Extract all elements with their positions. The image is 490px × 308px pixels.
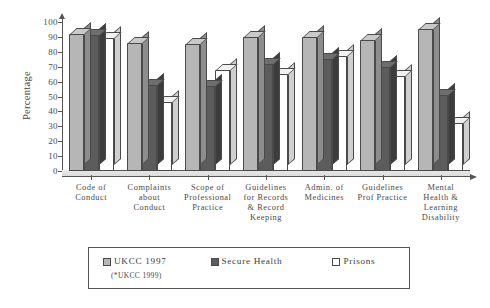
chart-figure: Percentage 0102030405060708090100 Code o… — [0, 0, 490, 308]
x-axis-label-line: Mental — [413, 183, 469, 193]
bar-side-face — [142, 31, 149, 165]
y-tick-label: 30 — [48, 121, 58, 131]
bar-groups — [62, 22, 470, 171]
bar-front-face — [302, 37, 317, 171]
legend-label: UKCC 1997 — [114, 256, 167, 266]
bar-front-face — [243, 37, 258, 171]
bar-front-face — [185, 44, 200, 171]
legend-swatch-icon — [332, 258, 340, 266]
bar-group — [179, 22, 237, 171]
bar[interactable] — [127, 43, 142, 171]
x-axis-label-line: Disability — [413, 213, 469, 223]
legend-sublabel: (*UKCC 1999) — [111, 271, 162, 280]
bar-group — [353, 22, 411, 171]
bar-group — [62, 22, 120, 171]
x-tick-mark — [149, 175, 150, 180]
bar-side-face — [405, 64, 412, 165]
legend-swatch-icon — [211, 258, 219, 266]
bar-side-face — [288, 62, 295, 165]
bar-side-face — [448, 83, 455, 165]
x-axis-label-line: about — [121, 193, 177, 203]
x-axis-label: GuidelinesProf Practice — [353, 183, 411, 223]
x-tick-mark — [324, 175, 325, 180]
bar-side-face — [200, 32, 207, 165]
x-tick-mark — [208, 175, 209, 180]
x-axis-label: MentalHealth &LearningDisability — [412, 183, 470, 223]
bar-side-face — [157, 73, 164, 165]
bar-side-face — [273, 52, 280, 165]
bar-side-face — [99, 23, 106, 165]
x-axis-label-line: Conduct — [121, 203, 177, 213]
bar-side-face — [332, 47, 339, 165]
y-tick-label: 60 — [48, 77, 58, 87]
x-axis-label-line: for Records — [238, 193, 294, 203]
bar-slot — [185, 22, 200, 171]
bar-group — [412, 22, 470, 171]
x-axis-label-line: Health & — [413, 193, 469, 203]
x-tick-mark — [383, 175, 384, 180]
x-tick-mark — [441, 175, 442, 180]
bar-front-face — [360, 40, 375, 171]
y-tick-label: 40 — [48, 106, 58, 116]
x-axis-label-line: Practice — [180, 203, 236, 213]
bar-side-face — [84, 22, 91, 165]
bar-side-face — [375, 28, 382, 165]
bar-front-face — [69, 34, 84, 171]
bar-side-face — [114, 26, 121, 165]
bar[interactable] — [302, 37, 317, 171]
x-tick-mark — [266, 175, 267, 180]
bar-slot — [418, 22, 433, 171]
bar[interactable] — [69, 34, 84, 171]
legend-item[interactable]: Prisons — [332, 256, 375, 266]
bar-slot — [360, 22, 375, 171]
chart-legend: UKCC 1997Secure HealthPrisons (*UKCC 199… — [88, 247, 410, 289]
x-axis-label-line: Scope of — [180, 183, 236, 193]
y-tick-label: 20 — [48, 136, 58, 146]
y-tick-label: 70 — [48, 62, 58, 72]
legend-label: Secure Health — [222, 256, 283, 266]
legend-swatch-icon — [103, 258, 111, 266]
x-axis-label: ComplaintsaboutConduct — [120, 183, 178, 223]
bar[interactable] — [243, 37, 258, 171]
x-axis-label-line: Learning — [413, 203, 469, 213]
y-tick-label: 10 — [48, 151, 58, 161]
legend-item[interactable]: UKCC 1997 — [103, 256, 167, 266]
x-axis-label-line: Code of — [63, 183, 119, 193]
plot-area: 0102030405060708090100 — [62, 22, 470, 177]
bar-group — [295, 22, 353, 171]
bar-front-face — [418, 29, 433, 171]
x-axis-label-line: & Record — [238, 203, 294, 213]
y-tick-label: 100 — [43, 17, 58, 27]
legend-items: UKCC 1997Secure HealthPrisons — [89, 256, 409, 266]
x-axis-label-line: Complaints — [121, 183, 177, 193]
bar-side-face — [390, 55, 397, 165]
bar-side-face — [258, 25, 265, 165]
bar-group — [120, 22, 178, 171]
x-axis-label-line: Professional — [180, 193, 236, 203]
y-axis-title: Percentage — [21, 51, 32, 141]
x-axis-label-line: Admin. of — [296, 183, 352, 193]
bar[interactable] — [418, 29, 433, 171]
legend-item[interactable]: Secure Health — [211, 256, 283, 266]
bar-slot — [69, 22, 84, 171]
bar[interactable] — [185, 44, 200, 171]
bar-slot — [127, 22, 142, 171]
x-tick-mark — [91, 175, 92, 180]
bar-slot — [302, 22, 317, 171]
x-axis-label-line: Guidelines — [354, 183, 410, 193]
bar-front-face — [127, 43, 142, 171]
y-tick-label: 90 — [48, 32, 58, 42]
x-axis-label-line: Medicines — [296, 193, 352, 203]
y-tick-label: 50 — [48, 92, 58, 102]
bar-slot — [243, 22, 258, 171]
x-axis-label-line: Conduct — [63, 193, 119, 203]
bar-side-face — [433, 17, 440, 165]
y-tick-label: 80 — [48, 47, 58, 57]
x-axis-label-line: Prof Practice — [354, 193, 410, 203]
legend-label: Prisons — [343, 256, 375, 266]
bar[interactable] — [360, 40, 375, 171]
x-axis-label: Scope ofProfessionalPractice — [179, 183, 237, 223]
x-axis-labels: Code ofConductComplaintsaboutConductScop… — [62, 183, 470, 223]
x-axis-label: Code ofConduct — [62, 183, 120, 223]
x-axis-label-line: Guidelines — [238, 183, 294, 193]
